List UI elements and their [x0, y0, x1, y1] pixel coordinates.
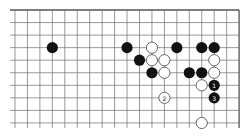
black-stone-move-1: 1: [209, 80, 220, 91]
move-number-label: 1: [212, 82, 216, 89]
black-stone-icon: [134, 55, 145, 66]
white-stone: [146, 55, 157, 66]
black-stone: [196, 67, 207, 78]
black-stone-icon: [209, 42, 220, 53]
white-stone-move-2: 2: [159, 92, 170, 103]
black-stone: [209, 42, 220, 53]
black-stone: [134, 55, 145, 66]
white-stone-icon: [159, 55, 170, 66]
white-stone: [159, 55, 170, 66]
black-stone-icon: [146, 67, 157, 78]
white-stone-icon: [146, 42, 157, 53]
white-stone-icon: [196, 80, 207, 91]
black-stone: [146, 67, 157, 78]
black-stone-icon: [196, 67, 207, 78]
white-stone-icon: [209, 55, 220, 66]
black-stone-move-3: 3: [209, 92, 220, 103]
black-stone-icon: [121, 42, 132, 53]
black-stone-icon: [196, 42, 207, 53]
black-stone-icon: [47, 42, 58, 53]
move-number-label: 3: [212, 95, 216, 102]
white-stone: [146, 42, 157, 53]
white-stone: [196, 117, 207, 128]
go-board: 123: [0, 0, 251, 140]
black-stone: [196, 42, 207, 53]
white-stone-icon: [209, 67, 220, 78]
black-stone: [47, 42, 58, 53]
white-stone: [209, 55, 220, 66]
white-stone: [209, 67, 220, 78]
white-stone-icon: [196, 117, 207, 128]
white-stone-icon: [146, 55, 157, 66]
black-stone: [171, 42, 182, 53]
white-stone: [196, 80, 207, 91]
move-number-label: 2: [162, 95, 166, 102]
white-stone-icon: [159, 67, 170, 78]
black-stone: [121, 42, 132, 53]
black-stone: [184, 67, 195, 78]
white-stone: [159, 67, 170, 78]
black-stone-icon: [184, 67, 195, 78]
black-stone-icon: [171, 42, 182, 53]
